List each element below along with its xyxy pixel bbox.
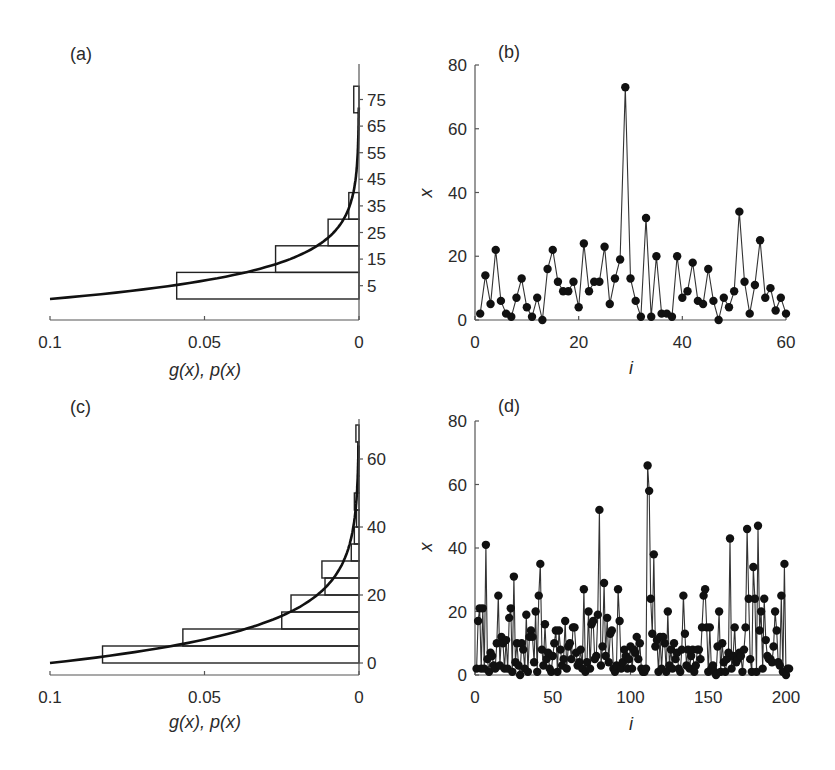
panel-label-d: (d) bbox=[498, 396, 520, 416]
figure: (a) 0.10.050515253545556575 g(x), p(x) (… bbox=[0, 0, 835, 770]
x-axis-label: g(x), p(x) bbox=[169, 360, 241, 380]
data-point bbox=[497, 297, 505, 305]
data-point bbox=[683, 287, 691, 295]
data-point bbox=[479, 604, 487, 612]
data-point bbox=[488, 652, 496, 660]
data-point bbox=[594, 610, 602, 618]
data-point bbox=[482, 541, 490, 549]
data-point bbox=[681, 630, 689, 638]
data-point bbox=[740, 278, 748, 286]
data-point bbox=[715, 607, 723, 615]
density-curve bbox=[50, 108, 359, 300]
y-tick-label: 80 bbox=[448, 412, 467, 431]
data-point bbox=[679, 591, 687, 599]
x-tick-label: 20 bbox=[569, 333, 588, 352]
data-point bbox=[481, 271, 489, 279]
data-point bbox=[595, 278, 603, 286]
data-point bbox=[512, 293, 520, 301]
data-point bbox=[505, 614, 513, 622]
data-point bbox=[592, 652, 600, 660]
data-point bbox=[755, 626, 763, 634]
histogram-bin bbox=[291, 595, 359, 612]
y-tick-label: 0 bbox=[458, 666, 467, 685]
y-axis-label: x bbox=[416, 542, 436, 553]
data-point bbox=[510, 572, 518, 580]
panel-b-time-series: (b) 0204060020406080 i x bbox=[416, 42, 795, 378]
x-axis-label: g(x), p(x) bbox=[169, 712, 241, 732]
panel-c-histogram: (c) 0.10.0500204060 g(x), p(x) bbox=[38, 397, 386, 732]
histogram-bin bbox=[351, 544, 359, 561]
x-tick-label: 0 bbox=[470, 688, 479, 707]
data-point bbox=[559, 655, 567, 663]
data-point bbox=[533, 293, 541, 301]
x-tick-label: 60 bbox=[777, 333, 796, 352]
data-point bbox=[757, 607, 765, 615]
x-tick-label: 0.1 bbox=[38, 688, 62, 707]
x-tick-label: 0 bbox=[470, 333, 479, 352]
data-point bbox=[528, 633, 536, 641]
data-point bbox=[595, 506, 603, 514]
axes: 0.10.0500204060 bbox=[38, 419, 386, 707]
data-point bbox=[580, 239, 588, 247]
data-point bbox=[564, 287, 572, 295]
data-point bbox=[645, 487, 653, 495]
y-tick-label: 20 bbox=[448, 247, 467, 266]
data-point bbox=[621, 83, 629, 91]
data-point bbox=[556, 645, 564, 653]
data-point bbox=[517, 274, 525, 282]
x-tick-label: 40 bbox=[673, 333, 692, 352]
data-point bbox=[761, 293, 769, 301]
data-point bbox=[741, 623, 749, 631]
data-point bbox=[754, 522, 762, 530]
data-point bbox=[771, 607, 779, 615]
panel-label-a: (a) bbox=[70, 44, 92, 64]
y-tick-label: 40 bbox=[448, 184, 467, 203]
data-point bbox=[726, 534, 734, 542]
data-point bbox=[563, 664, 571, 672]
data-point bbox=[766, 284, 774, 292]
data-point bbox=[664, 607, 672, 615]
x-tick-label: 50 bbox=[543, 688, 562, 707]
data-point bbox=[696, 655, 704, 663]
y-tick-label: 20 bbox=[367, 586, 386, 605]
data-point bbox=[530, 658, 538, 666]
data-point bbox=[628, 664, 636, 672]
histogram-bin bbox=[177, 272, 359, 299]
data-point bbox=[580, 585, 588, 593]
data-point bbox=[718, 639, 726, 647]
data-point bbox=[600, 579, 608, 587]
data-point bbox=[536, 560, 544, 568]
data-point bbox=[574, 303, 582, 311]
data-point bbox=[730, 287, 738, 295]
data-point bbox=[549, 652, 557, 660]
data-point bbox=[492, 246, 500, 254]
x-tick-label: 100 bbox=[616, 688, 644, 707]
data-point bbox=[647, 313, 655, 321]
data-point bbox=[780, 560, 788, 568]
y-tick-label: 40 bbox=[448, 539, 467, 558]
data-point bbox=[650, 550, 658, 558]
panel-label-c: (c) bbox=[70, 397, 91, 417]
y-tick-label: 75 bbox=[367, 91, 386, 110]
data-point bbox=[647, 595, 655, 603]
panel-a-histogram: (a) 0.10.050515253545556575 g(x), p(x) bbox=[38, 44, 386, 380]
data-point bbox=[561, 617, 569, 625]
data-point bbox=[772, 626, 780, 634]
data-point bbox=[554, 278, 562, 286]
y-tick-label: 20 bbox=[448, 603, 467, 622]
data-point bbox=[758, 664, 766, 672]
x-tick-label: 150 bbox=[694, 688, 722, 707]
data-point bbox=[643, 461, 651, 469]
histogram-bin bbox=[354, 527, 359, 544]
data-point bbox=[762, 636, 770, 644]
data-point bbox=[523, 303, 531, 311]
data-point bbox=[494, 591, 502, 599]
x-tick-label: 0.05 bbox=[188, 333, 221, 352]
data-point bbox=[636, 639, 644, 647]
y-tick-label: 60 bbox=[448, 120, 467, 139]
data-point bbox=[738, 668, 746, 676]
data-point bbox=[725, 303, 733, 311]
data-point bbox=[541, 620, 549, 628]
x-tick-label: 0 bbox=[354, 688, 363, 707]
data-point bbox=[720, 293, 728, 301]
